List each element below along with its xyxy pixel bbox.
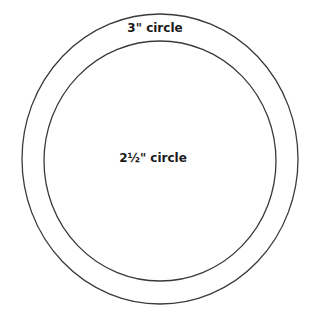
outer-circle-label: 3" circle bbox=[127, 21, 182, 35]
inner-circle-label: 2½" circle bbox=[119, 151, 187, 165]
